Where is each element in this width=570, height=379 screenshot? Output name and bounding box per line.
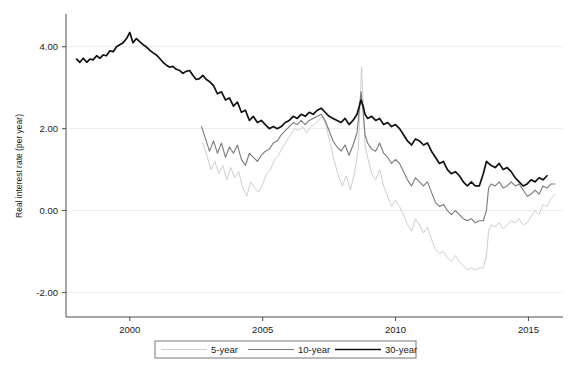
- y-axis-title: Real interest rate (per year): [14, 114, 24, 218]
- legend-label-30-year: 30-year: [385, 344, 417, 355]
- legend-label-5-year: 5-year: [211, 344, 238, 355]
- legend-label-10-year: 10-year: [298, 344, 330, 355]
- y-tick-label: 2.00: [40, 123, 59, 134]
- x-tick-label: 2000: [119, 324, 140, 335]
- chart-background: [0, 0, 570, 379]
- y-tick-label: -2.00: [36, 287, 58, 298]
- x-tick-label: 2015: [518, 324, 539, 335]
- x-tick-label: 2005: [252, 324, 273, 335]
- x-tick-label: 2010: [385, 324, 406, 335]
- real-interest-rate-line-chart: -2.000.002.004.00 2000200520102015 Real …: [0, 0, 570, 379]
- chart-legend: 5-year10-year30-year: [155, 341, 417, 358]
- y-tick-label: 4.00: [40, 41, 59, 52]
- chart-figure: -2.000.002.004.00 2000200520102015 Real …: [0, 0, 570, 379]
- y-tick-label: 0.00: [40, 205, 59, 216]
